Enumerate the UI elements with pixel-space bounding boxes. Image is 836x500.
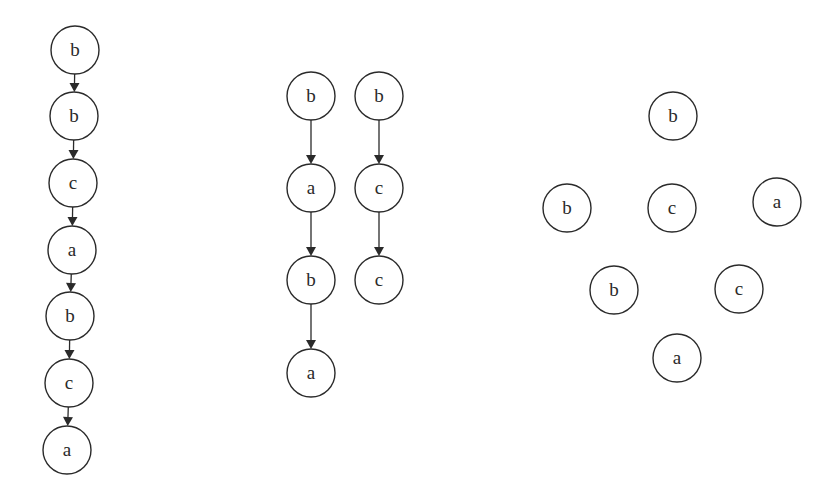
node-label: a xyxy=(773,191,782,212)
graph-node: c xyxy=(715,265,763,313)
arrowhead-icon xyxy=(306,340,316,349)
graph-node: b xyxy=(287,72,335,120)
edge-arrow xyxy=(306,120,316,164)
arrowhead-icon xyxy=(66,283,76,292)
node-label: a xyxy=(307,177,316,198)
graph-node: a xyxy=(43,426,91,474)
graph-node: b xyxy=(287,256,335,304)
node-label: b xyxy=(70,39,80,60)
edge-arrow xyxy=(64,340,74,359)
arrowhead-icon xyxy=(67,217,77,226)
node-label: b xyxy=(65,305,75,326)
graph-node: b xyxy=(50,92,98,140)
node-label: a xyxy=(63,439,72,460)
graph-node: c xyxy=(45,359,93,407)
arrowhead-icon xyxy=(306,247,316,256)
node-label: b xyxy=(562,197,572,218)
graph-node: b xyxy=(46,292,94,340)
graph-node: c xyxy=(49,159,97,207)
edge-arrow xyxy=(67,207,77,226)
edge-arrow xyxy=(66,274,76,292)
node-label: c xyxy=(65,372,73,393)
edge-arrow xyxy=(63,407,73,426)
graph-node: b xyxy=(649,92,697,140)
graph-node: a xyxy=(287,349,335,397)
graph-node: c xyxy=(648,184,696,232)
arrowhead-icon xyxy=(64,350,74,359)
node-label: a xyxy=(307,362,316,383)
node-label: b xyxy=(374,85,384,106)
arrowhead-icon xyxy=(374,155,384,164)
edge-arrow xyxy=(374,212,384,256)
node-label: a xyxy=(68,239,77,260)
node-label: c xyxy=(375,177,383,198)
node-label: b xyxy=(306,85,316,106)
node-label: c xyxy=(735,278,743,299)
graph-node: b xyxy=(543,184,591,232)
node-label: b xyxy=(306,269,316,290)
edge-arrow xyxy=(68,140,78,159)
arrowhead-icon xyxy=(63,417,73,426)
graph-node: b xyxy=(590,266,638,314)
chain-graph: bbcabca xyxy=(43,26,99,474)
arrowhead-icon xyxy=(68,150,78,159)
graph-node: a xyxy=(653,334,701,382)
arrowhead-icon xyxy=(374,247,384,256)
edge-arrow xyxy=(374,120,384,164)
edge-arrow xyxy=(306,212,316,256)
graph-node: c xyxy=(355,256,403,304)
node-label: b xyxy=(609,279,619,300)
node-label: b xyxy=(668,105,678,126)
edge-arrow xyxy=(70,74,80,92)
arrowhead-icon xyxy=(306,155,316,164)
node-label: b xyxy=(69,105,79,126)
node-label: a xyxy=(673,347,682,368)
two-chains-graph: bababcc xyxy=(287,72,403,397)
graph-node: a xyxy=(287,164,335,212)
node-label: c xyxy=(668,197,676,218)
node-label: c xyxy=(69,172,77,193)
diagram-canvas: bbcabcabababccbbcabca xyxy=(0,0,836,500)
graph-node: a xyxy=(753,178,801,226)
arrowhead-icon xyxy=(70,83,80,92)
graph-node: a xyxy=(48,226,96,274)
node-label: c xyxy=(375,269,383,290)
graph-node: b xyxy=(51,26,99,74)
edge-arrow xyxy=(306,304,316,349)
graph-node: b xyxy=(355,72,403,120)
graphs-root: bbcabcabababccbbcabca xyxy=(43,26,801,474)
graph-node: c xyxy=(355,164,403,212)
unconnected-graph: bbcabca xyxy=(543,92,801,382)
